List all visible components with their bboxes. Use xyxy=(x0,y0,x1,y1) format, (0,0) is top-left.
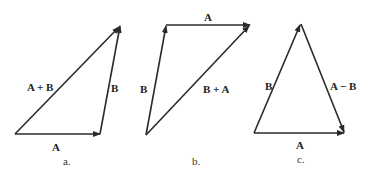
caption-a: a. xyxy=(63,155,71,167)
panel-b: A B B + A b. xyxy=(140,11,250,167)
label-b-left: B xyxy=(140,83,148,95)
vector-a-B xyxy=(100,26,120,134)
label-c-bottom: A xyxy=(296,139,304,151)
vector-addition-diagram: A B A + B a. A B B + A b. A B A − B c. xyxy=(0,0,370,172)
label-c-right: A − B xyxy=(330,80,357,92)
caption-c: c. xyxy=(297,153,305,165)
caption-b: b. xyxy=(192,155,201,167)
label-b-top: A xyxy=(204,11,212,23)
label-c-left: B xyxy=(265,80,273,92)
label-a-bottom: A xyxy=(52,141,60,153)
vector-b-B-plus-A xyxy=(146,26,249,135)
panel-a: A B A + B a. xyxy=(15,26,120,167)
label-a-diagonal: A + B xyxy=(27,81,54,93)
label-a-right: B xyxy=(111,82,119,94)
vector-c-A-minus-B xyxy=(301,24,344,132)
panel-c: A B A − B c. xyxy=(254,24,357,165)
label-b-diagonal: B + A xyxy=(203,83,229,95)
vector-c-B xyxy=(254,25,300,133)
vector-b-B xyxy=(146,26,166,135)
